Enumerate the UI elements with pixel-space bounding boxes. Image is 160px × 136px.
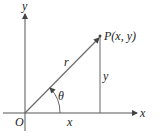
point-label: P(x, y) — [103, 29, 136, 43]
point-p — [99, 35, 102, 38]
y-axis-label: y — [21, 0, 28, 13]
origin-label: O — [15, 115, 24, 129]
polar-coordinates-diagram: y x O P(x, y) r θ x y — [0, 0, 160, 136]
x-axis-label: x — [139, 106, 146, 120]
horizontal-leg-label: x — [66, 115, 73, 129]
radius-label: r — [64, 55, 69, 69]
vertical-leg-label: y — [102, 69, 109, 83]
angle-label: θ — [58, 89, 64, 103]
